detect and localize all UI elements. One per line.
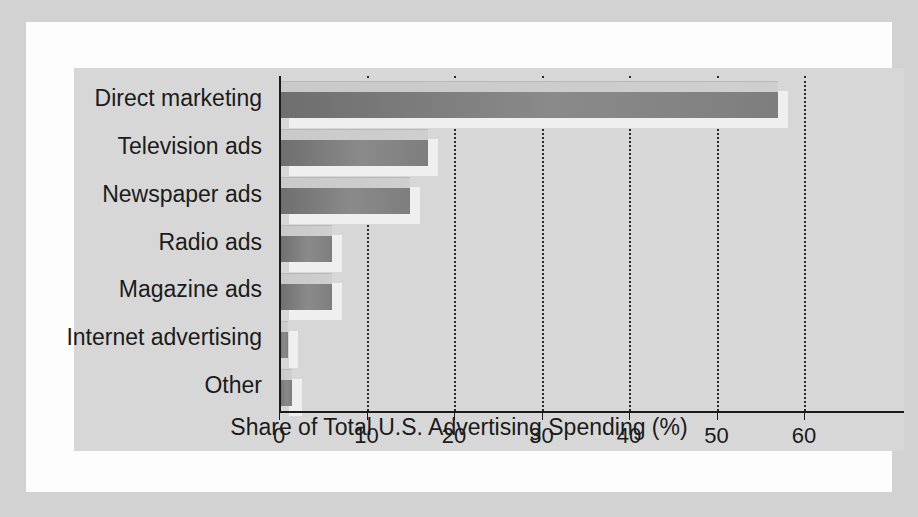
- category-label-4: Magazine ads: [119, 276, 262, 303]
- category-label-6: Other: [204, 372, 262, 399]
- category-label-0: Direct marketing: [95, 85, 262, 112]
- x-axis-title: Share of Total U.S. Advertising Spending…: [26, 414, 892, 441]
- category-label-2: Newspaper ads: [102, 181, 262, 208]
- category-label-3: Radio ads: [158, 229, 262, 256]
- category-label-5: Internet advertising: [66, 324, 262, 351]
- plot-area: [279, 76, 904, 411]
- y-axis-line: [279, 76, 281, 411]
- chart-figure: 0102030405060 Direct marketingTelevision…: [0, 0, 918, 517]
- chart-card: 0102030405060 Direct marketingTelevision…: [26, 22, 892, 492]
- x-axis-line: [279, 411, 904, 413]
- plot-panel: 0102030405060 Direct marketingTelevision…: [74, 68, 904, 451]
- category-label-1: Television ads: [118, 133, 262, 160]
